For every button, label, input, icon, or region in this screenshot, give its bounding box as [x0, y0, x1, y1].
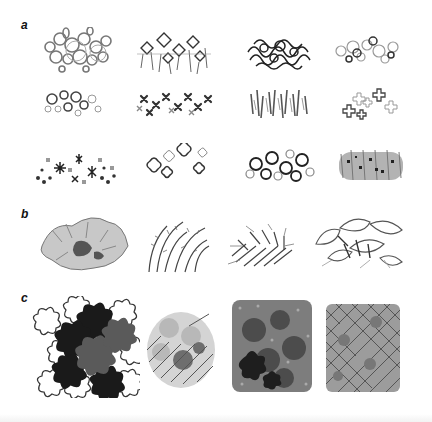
sketch-c4-crosshatch-mass — [322, 300, 404, 396]
sketch-a7-vertical-hatch — [247, 86, 313, 122]
sketch-a3-dense-scribble — [244, 32, 316, 74]
sketch-a8-outlined-crosses — [333, 85, 407, 125]
sketch-a2-spiky — [133, 28, 213, 76]
sketch-c3-dense-speckle — [228, 296, 316, 396]
sketch-b1-broad-leaf — [36, 216, 130, 274]
sketch-a1-circles — [40, 27, 116, 75]
sketch-a9-asterisks-dots — [32, 150, 122, 190]
sketch-c2-soft-flowers-hatch — [143, 306, 219, 392]
sketch-b2-grass-fronds — [145, 212, 213, 274]
panel-label-a: a — [21, 18, 28, 32]
panel-label-c: c — [21, 291, 28, 305]
sketch-a12-gray-hatch-dots — [333, 146, 409, 186]
sketch-a6-dense-crosses — [133, 86, 217, 120]
sketch-c1-flowers — [32, 296, 140, 398]
sketch-a5-ring-clusters — [40, 85, 110, 121]
sketch-b4-large-leaves — [310, 214, 410, 278]
sketch-a11-bold-rings — [242, 146, 318, 186]
sketch-a4-light-circles — [333, 33, 407, 67]
bottom-edge-band — [0, 414, 432, 422]
panel-label-b: b — [21, 207, 28, 221]
sketch-a10-outlined-blossoms — [140, 143, 214, 185]
sketch-b3-fern-clump — [224, 216, 300, 274]
